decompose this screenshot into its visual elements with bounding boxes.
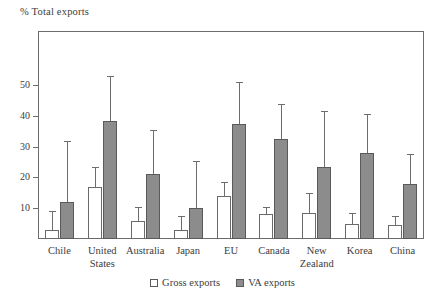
error-bar-stem (395, 216, 396, 225)
legend-entry-va[interactable]: VA exports (236, 277, 295, 288)
y-tick-mark (33, 85, 39, 86)
x-axis-label-australia: Australia (124, 245, 167, 258)
error-bar-cap (150, 130, 157, 131)
bar-korea-gross-exports (345, 224, 359, 239)
error-bar-cap (278, 104, 285, 105)
error-bar-cap (364, 114, 371, 115)
error-bar-cap (178, 216, 185, 217)
bar-canada-gross-exports (259, 214, 273, 239)
error-bar-stem (309, 193, 310, 213)
bar-eu-va-exports (232, 124, 246, 239)
error-bar-stem (324, 111, 325, 166)
x-axis-label-line: Zealand (295, 258, 338, 271)
bar-japan-va-exports (189, 208, 203, 239)
x-axis-label-line: China (381, 245, 424, 258)
error-bar-cap (135, 207, 142, 208)
bar-china-gross-exports (388, 225, 402, 239)
error-bar-stem (110, 76, 111, 121)
error-bar-stem (224, 182, 225, 196)
bar-united-states-va-exports (103, 121, 117, 239)
legend-label: VA exports (248, 277, 295, 288)
error-bar-cap (221, 182, 228, 183)
error-bar-cap (321, 111, 328, 112)
error-bar-stem (52, 211, 53, 229)
x-axis-label-korea: Korea (338, 245, 381, 258)
error-bar-cap (236, 82, 243, 83)
bar-chile-va-exports (60, 202, 74, 239)
chart-figure: % Total exports 1020304050 ChileUnitedSt… (0, 0, 445, 299)
bar-united-states-gross-exports (88, 187, 102, 239)
error-bar-stem (196, 161, 197, 209)
error-bar-stem (367, 114, 368, 152)
y-tick-mark (33, 177, 39, 178)
x-axis-label-canada: Canada (252, 245, 295, 258)
x-axis-label-line: New (295, 245, 338, 258)
error-bar-cap (49, 211, 56, 212)
bar-japan-gross-exports (174, 230, 188, 239)
chart-legend: Gross exportsVA exports (0, 277, 445, 288)
bar-korea-va-exports (360, 153, 374, 239)
legend-swatch-icon (236, 279, 244, 287)
error-bar-cap (392, 216, 399, 217)
y-tick-label: 20 (8, 171, 30, 182)
error-bar-cap (92, 167, 99, 168)
x-axis-label-japan: Japan (167, 245, 210, 258)
x-axis-label-line: States (81, 258, 124, 271)
y-tick-label: 40 (8, 110, 30, 121)
error-bar-stem (352, 213, 353, 224)
error-bar-cap (64, 141, 71, 142)
error-bar-cap (306, 193, 313, 194)
bar-china-va-exports (403, 184, 417, 239)
legend-label: Gross exports (162, 277, 220, 288)
bar-new-zealand-gross-exports (302, 213, 316, 239)
error-bar-stem (281, 104, 282, 139)
bar-australia-gross-exports (131, 221, 145, 239)
y-tick-mark (33, 208, 39, 209)
x-axis-label-new-zealand: NewZealand (295, 245, 338, 270)
error-bar-cap (407, 154, 414, 155)
bar-chile-gross-exports (45, 230, 59, 239)
error-bar-stem (410, 154, 411, 183)
x-axis-label-united-states: UnitedStates (81, 245, 124, 270)
bar-australia-va-exports (146, 174, 160, 239)
x-axis-label-line: Canada (252, 245, 295, 258)
error-bar-cap (193, 161, 200, 162)
x-axis-label-line: Chile (38, 245, 81, 258)
y-tick-mark (33, 116, 39, 117)
y-tick-mark (33, 147, 39, 148)
error-bar-stem (239, 82, 240, 124)
x-axis-label-china: China (381, 245, 424, 258)
y-tick-label: 30 (8, 141, 30, 152)
bar-new-zealand-va-exports (317, 167, 331, 239)
legend-entry-gross[interactable]: Gross exports (150, 277, 220, 288)
legend-swatch-icon (150, 279, 158, 287)
x-axis-label-eu: EU (210, 245, 253, 258)
x-axis-label-line: United (81, 245, 124, 258)
x-axis-label-line: EU (210, 245, 253, 258)
bar-canada-va-exports (274, 139, 288, 239)
x-axis-label-line: Australia (124, 245, 167, 258)
bar-eu-gross-exports (217, 196, 231, 239)
error-bar-stem (67, 141, 68, 203)
y-axis-label: % Total exports (20, 6, 89, 17)
error-bar-stem (138, 207, 139, 221)
x-axis-label-chile: Chile (38, 245, 81, 258)
error-bar-cap (263, 207, 270, 208)
y-tick-label: 10 (8, 202, 30, 213)
error-bar-cap (107, 76, 114, 77)
error-bar-stem (153, 130, 154, 175)
error-bar-cap (349, 213, 356, 214)
x-axis-label-line: Korea (338, 245, 381, 258)
x-axis-label-line: Japan (167, 245, 210, 258)
error-bar-stem (181, 216, 182, 230)
error-bar-stem (95, 167, 96, 187)
y-tick-label: 50 (8, 79, 30, 90)
error-bar-stem (266, 207, 267, 215)
